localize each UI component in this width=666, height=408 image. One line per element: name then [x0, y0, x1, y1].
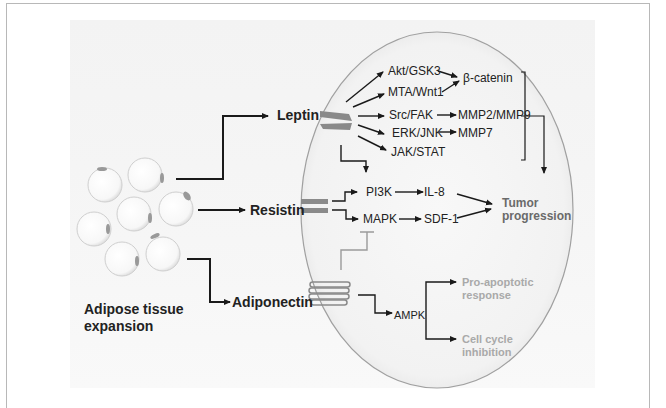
mapk-label: MAPK [363, 213, 397, 225]
arrow-adipose-to-leptin [176, 116, 268, 179]
beta-catenin-label: β-catenin [463, 72, 513, 84]
jak-stat-label: JAK/STAT [391, 146, 445, 158]
pi3k-label: PI3K [366, 186, 392, 198]
cell-cycle-line2: inhibition [462, 346, 511, 359]
erk-jnk-label: ERK/JNK [392, 127, 443, 139]
pathway-diagram [0, 0, 666, 408]
pro-apoptotic-line1: Pro-apoptotic [462, 276, 534, 289]
pro-apoptotic-line2: response [462, 289, 511, 302]
tumor-progression-line1: Tumor [502, 196, 538, 210]
arrow-adipose-to-adiponectin [187, 259, 230, 302]
adipocyte-cluster-icon [77, 158, 193, 276]
mta-wnt1-label: MTA/Wnt1 [388, 86, 444, 98]
il8-label: IL-8 [424, 186, 445, 198]
adipose-label-line1: Adipose tissue [84, 302, 184, 317]
src-fak-label: Src/FAK [389, 109, 433, 121]
ampk-label: AMPK [394, 309, 425, 321]
mmp7-label: MMP7 [458, 127, 493, 139]
mmp2-mmp9-label: MMP2/MMP9 [458, 109, 531, 121]
akt-gsk3-label: Akt/GSK3 [388, 65, 441, 77]
leptin-label: Leptin [277, 108, 319, 123]
cell-cycle-line1: Cell cycle [462, 333, 513, 346]
tumor-progression-line2: progression [502, 209, 571, 223]
adiponectin-label: Adiponectin [232, 295, 313, 310]
adipose-label-line2: expansion [84, 319, 153, 334]
sdf1-label: SDF-1 [424, 213, 459, 225]
resistin-label: Resistin [250, 203, 304, 218]
